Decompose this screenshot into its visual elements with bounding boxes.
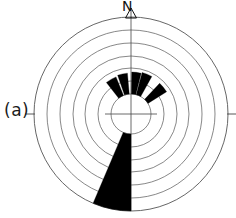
petal-S-SSW bbox=[93, 132, 131, 211]
petal-NE bbox=[145, 83, 167, 103]
panel-label: (a) bbox=[4, 100, 29, 120]
rose-diagram-figure: N (a) bbox=[0, 0, 236, 218]
north-label: N bbox=[122, 0, 132, 14]
petal-sectors bbox=[93, 72, 167, 211]
rose-diagram-plot bbox=[0, 0, 236, 218]
